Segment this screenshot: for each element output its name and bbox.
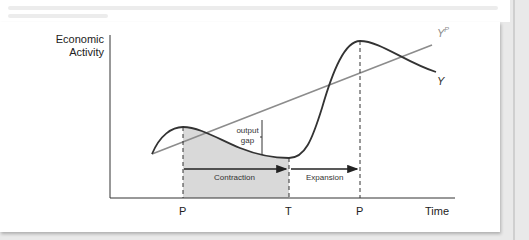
contraction-label: Contraction bbox=[214, 173, 255, 182]
output-gap-label-line1: output bbox=[234, 126, 261, 136]
y-axis-label-line1: Economic bbox=[40, 33, 104, 46]
output-gap-label-line2: gap bbox=[234, 136, 261, 146]
x-axis-label: Time bbox=[425, 205, 449, 217]
expansion-label: Expansion bbox=[306, 173, 343, 182]
y-axis-label-line2: Activity bbox=[40, 46, 104, 59]
x-tick-trough: T bbox=[285, 205, 292, 217]
x-tick-peak-1: P bbox=[179, 205, 186, 217]
actual-output-label: Y bbox=[437, 75, 444, 87]
x-tick-peak-2: P bbox=[356, 205, 363, 217]
y-axis-label: Economic Activity bbox=[40, 33, 104, 59]
output-gap-label: output gap bbox=[234, 126, 261, 146]
potential-output-label: YP bbox=[437, 26, 449, 39]
potential-output-superscript: P bbox=[444, 26, 449, 33]
potential-output-line bbox=[152, 45, 432, 154]
